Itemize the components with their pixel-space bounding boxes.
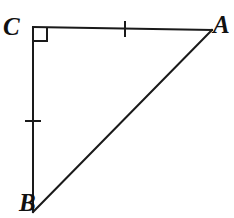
vertex-label-c: C: [3, 14, 20, 39]
vertex-label-a: A: [213, 12, 230, 37]
segment-leg-CA: [33, 27, 212, 30]
right-angle-marker-icon: [33, 27, 47, 41]
segment-hypotenuse-BA: [33, 30, 212, 212]
triangle-figure: C A B: [0, 0, 234, 218]
vertex-label-b: B: [19, 190, 36, 215]
geometry-canvas: [0, 0, 234, 218]
